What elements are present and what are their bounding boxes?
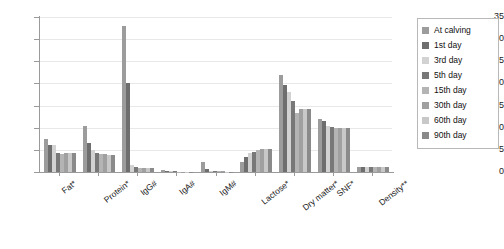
y-tick-mark (34, 128, 39, 129)
x-tick-mark (255, 172, 256, 176)
legend-item[interactable]: 3rd day (422, 53, 495, 68)
bar (126, 83, 130, 172)
x-tick-mark (294, 172, 295, 176)
x-axis-label: Density** (378, 179, 411, 208)
legend-item[interactable]: 1st day (422, 38, 495, 53)
bar (229, 172, 233, 173)
legend-label: 15th day (434, 86, 467, 95)
legend-item[interactable]: 15th day (422, 83, 495, 98)
legend-label: 3rd day (434, 56, 462, 65)
bar-group (318, 17, 350, 172)
y-tick-mark (34, 17, 39, 18)
x-axis-label: Fat* (60, 179, 78, 196)
legend-label: 1st day (434, 41, 461, 50)
x-axis-label: Dry matter* (301, 179, 340, 213)
bar-group (240, 17, 272, 172)
y-axis-line (39, 16, 40, 173)
bar-chart: 05101520253035 Fat*Protein*IgG#IgA#IgM#L… (0, 0, 504, 249)
x-tick-mark (372, 172, 373, 176)
x-axis-label: Protein* (102, 179, 131, 205)
y-tick-mark (34, 172, 39, 173)
x-axis-label: SNF* (335, 179, 357, 199)
legend-label: 60th day (434, 116, 467, 125)
x-axis-label: IgM# (218, 179, 238, 198)
bar (385, 167, 389, 172)
legend-item[interactable]: 60th day (422, 113, 495, 128)
bar-group (161, 17, 193, 172)
x-axis-label: Lactose* (260, 179, 292, 206)
y-tick-mark (34, 39, 39, 40)
y-tick-label: 0 (478, 167, 504, 176)
x-tick-mark (333, 172, 334, 176)
bar (150, 168, 154, 172)
legend-swatch-icon (422, 117, 429, 124)
x-axis-line (39, 172, 394, 173)
x-axis-label: IgA# (178, 179, 197, 197)
legend-item[interactable]: 30th day (422, 98, 495, 113)
legend-label: 30th day (434, 101, 467, 110)
x-tick-mark (176, 172, 177, 176)
legend-swatch-icon (422, 87, 429, 94)
bar-group (201, 17, 233, 172)
legend-label: At calving (434, 26, 471, 35)
x-tick-mark (137, 172, 138, 176)
bar-group (44, 17, 76, 172)
x-tick-mark (98, 172, 99, 176)
y-tick-mark (34, 106, 39, 107)
legend-swatch-icon (422, 27, 429, 34)
y-tick-mark (34, 150, 39, 151)
legend-swatch-icon (422, 72, 429, 79)
legend: At calving1st day3rd day5th day15th day3… (417, 18, 499, 149)
bar-group (357, 17, 389, 172)
bar (307, 109, 311, 172)
x-tick-mark (59, 172, 60, 176)
x-tick-mark (216, 172, 217, 176)
legend-item[interactable]: 90th day (422, 128, 495, 143)
bar-group (279, 17, 311, 172)
legend-swatch-icon (422, 102, 429, 109)
legend-swatch-icon (422, 42, 429, 49)
y-tick-mark (34, 83, 39, 84)
bar (189, 172, 193, 173)
x-axis-label: IgG# (139, 179, 159, 197)
legend-item[interactable]: At calving (422, 23, 495, 38)
bar-group (122, 17, 154, 172)
legend-swatch-icon (422, 132, 429, 139)
bar (268, 149, 272, 172)
bar (111, 155, 115, 172)
bar-group (83, 17, 115, 172)
bar (72, 153, 76, 172)
legend-item[interactable]: 5th day (422, 68, 495, 83)
y-tick-mark (34, 61, 39, 62)
legend-label: 5th day (434, 71, 462, 80)
legend-swatch-icon (422, 57, 429, 64)
legend-label: 90th day (434, 131, 467, 140)
bar (346, 128, 350, 172)
